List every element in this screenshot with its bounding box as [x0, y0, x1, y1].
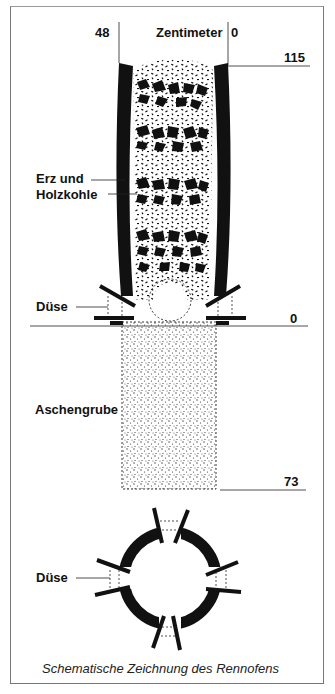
- label-charge-line2: Holzkohle: [36, 187, 97, 202]
- diagram-caption: Schematische Zeichnung des Rennofens: [42, 661, 280, 676]
- scale-width-right: 0: [231, 25, 238, 40]
- shaft-wall-left: [116, 63, 133, 296]
- scale-width-left: 48: [95, 25, 109, 40]
- label-tuyere-side: Düse: [36, 299, 68, 314]
- label-tuyere-plan: Düse: [36, 570, 68, 585]
- scale-height-top: 115: [284, 50, 305, 65]
- ash-pit: [122, 322, 216, 489]
- label-charge-line1: Erz und: [36, 171, 84, 186]
- scale-depth-bottom: 73: [284, 474, 298, 489]
- shaft-charge: [133, 60, 213, 321]
- furnace-diagram: 48 Zentimeter 0 115 Erz und Holzkohle Dü…: [0, 0, 335, 694]
- scale-unit-label: Zentimeter: [156, 25, 222, 40]
- scale-height-zero: 0: [290, 311, 297, 326]
- label-ash-pit: Aschengrube: [35, 402, 118, 417]
- shaft-wall-right: [214, 63, 231, 296]
- furnace-plan-view: [95, 508, 241, 650]
